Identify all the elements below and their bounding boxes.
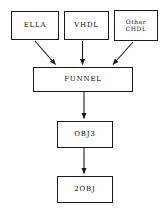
node-obj3-label: OBJ3 xyxy=(74,130,95,138)
node-funnel[interactable]: FUNNEL xyxy=(33,67,133,92)
edge-chdl-to-funnel xyxy=(113,42,133,65)
node-vhdl[interactable]: VHDL xyxy=(64,11,109,40)
node-2obj-label: 2OBJ xyxy=(74,185,95,193)
node-ella-label: ELLA xyxy=(24,21,47,29)
node-other-chdl[interactable]: Other CHDL xyxy=(114,10,158,41)
edge-ella-to-funnel xyxy=(35,41,56,65)
node-other-chdl-label: Other CHDL xyxy=(125,19,146,33)
node-funnel-label: FUNNEL xyxy=(64,75,102,83)
node-vhdl-label: VHDL xyxy=(74,21,99,29)
node-2obj[interactable]: 2OBJ xyxy=(57,176,113,203)
diagram-canvas: ELLA VHDL Other CHDL FUNNEL OBJ3 2OBJ xyxy=(0,0,165,213)
node-ella[interactable]: ELLA xyxy=(11,11,59,40)
node-obj3[interactable]: OBJ3 xyxy=(57,121,113,148)
